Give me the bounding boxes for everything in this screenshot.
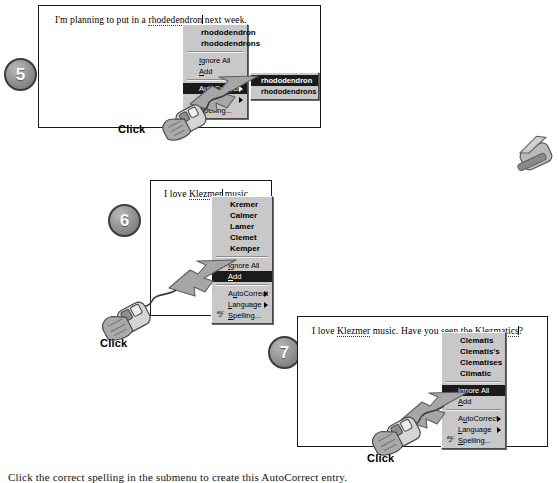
misspelled-word-7a: Klezmer — [337, 326, 370, 337]
figure-caption: Click the correct spelling in the submen… — [8, 471, 548, 483]
chevron-right-icon — [497, 416, 501, 422]
click-label-7: Click — [367, 452, 394, 464]
click-label-5: Click — [118, 123, 145, 135]
menu-suggestion-2[interactable]: Clematises — [442, 357, 505, 368]
chevron-right-icon — [264, 291, 268, 297]
menu-suggestion-1[interactable]: rhododendrons — [183, 38, 247, 49]
menu-suggestion-0[interactable]: Clematis — [442, 335, 505, 346]
menu-separator — [446, 381, 501, 383]
doc-text-after-7: ? — [519, 326, 523, 336]
step-badge-5: 5 — [4, 58, 37, 91]
click-label-6: Click — [100, 337, 127, 349]
spell-check-icon: ABC✓ — [216, 311, 225, 320]
step-badge-6: 6 — [108, 204, 141, 237]
doc-text-before-7: I love — [312, 326, 337, 336]
menu-item-language[interactable]: Language — [212, 299, 272, 310]
menu-suggestion-3[interactable]: Clemet — [212, 232, 272, 243]
menu-item-spelling[interactable]: ABC✓Spelling... — [442, 435, 505, 446]
menu-suggestion-1[interactable]: Clematis's — [442, 346, 505, 357]
menu-suggestion-2[interactable]: Lamer — [212, 221, 272, 232]
menu-item-ignore-all[interactable]: Ignore All — [183, 55, 247, 66]
doc-text-before-6: I love — [164, 189, 189, 199]
menu-suggestion-0[interactable]: rhododendron — [183, 27, 247, 38]
menu-suggestion-4[interactable]: Kemper — [212, 243, 272, 254]
doc-text-before-5: I'm planning to put in a — [55, 15, 148, 25]
menu-suggestion-0[interactable]: Kremer — [212, 199, 272, 210]
spell-check-icon: ABC✓ — [446, 436, 455, 445]
hand-mouse-cursor-5[interactable] — [160, 100, 222, 142]
menu-suggestion-3[interactable]: Climatic — [442, 368, 505, 379]
chevron-right-icon — [264, 302, 268, 308]
partial-hand-mouse-graphic — [512, 135, 558, 183]
pointer-arrow-6 — [166, 258, 242, 298]
menu-item-spelling[interactable]: ABC✓Spelling... — [212, 310, 272, 321]
menu-suggestion-1[interactable]: Calmer — [212, 210, 272, 221]
chevron-right-icon — [497, 427, 501, 433]
menu-separator — [187, 51, 243, 53]
